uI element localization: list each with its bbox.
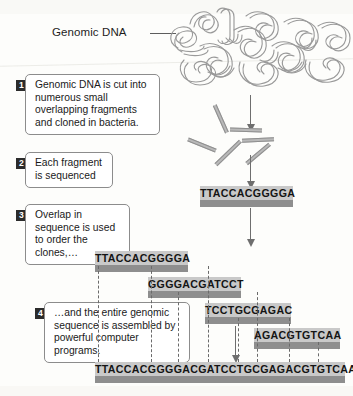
clone-sequence-text: GGGGACGATCCT bbox=[148, 277, 241, 291]
dna-tangle-icon bbox=[160, 2, 353, 94]
arrow-sequence bbox=[250, 155, 251, 182]
alignment-guide bbox=[178, 292, 179, 362]
arrow-assemble bbox=[235, 326, 236, 356]
alignment-guide bbox=[151, 266, 152, 362]
dna-fragment bbox=[213, 104, 228, 133]
clone-sequence-text: TTACCACGGGGA bbox=[95, 251, 188, 265]
alignment-guide bbox=[257, 292, 258, 362]
clone-sequence-text: AGACGTGTCAA bbox=[254, 328, 340, 342]
sequenced-fragment-bar: TTACCACGGGGA bbox=[200, 186, 293, 207]
clone-bar: AGACGTGTCAA bbox=[254, 328, 340, 349]
arrow-cut bbox=[250, 95, 251, 125]
step-2-callout: Each fragment is sequenced bbox=[25, 152, 113, 188]
alignment-guide bbox=[318, 342, 319, 362]
figure-genome-sequencing: Genomic DNA bbox=[0, 0, 353, 396]
alignment-guide bbox=[98, 266, 99, 362]
scan-artifact-bottom bbox=[0, 386, 353, 396]
clone-body bbox=[254, 342, 340, 349]
dna-fragment bbox=[230, 127, 262, 132]
alignment-guide bbox=[289, 318, 290, 362]
sequenced-fragment-text: TTACCACGGGGA bbox=[200, 186, 293, 200]
sequenced-fragment-body bbox=[200, 200, 293, 207]
clone-body bbox=[148, 291, 241, 298]
step-4-callout: …and the entire genomic sequence is asse… bbox=[44, 302, 190, 363]
clone-bar: TCCTGCGAGAC bbox=[205, 303, 291, 324]
clone-body bbox=[95, 265, 188, 272]
dna-fragment bbox=[187, 138, 216, 153]
alignment-guide bbox=[208, 266, 209, 362]
assembled-sequence-body bbox=[95, 376, 345, 383]
arrow-order bbox=[250, 208, 251, 240]
dna-fragment bbox=[215, 140, 242, 166]
clone-bar: TTACCACGGGGA bbox=[95, 251, 188, 272]
dna-fragment bbox=[242, 137, 274, 142]
clone-body bbox=[205, 317, 291, 324]
genomic-dna-label: Genomic DNA bbox=[52, 26, 127, 38]
clone-bar: GGGGACGATCCT bbox=[148, 277, 241, 298]
assembled-sequence-text: TTACCACGGGGACGATCCTGCGAGACGTGTCAA bbox=[95, 362, 345, 376]
assembled-sequence-bar: TTACCACGGGGACGATCCTGCGAGACGTGTCAA bbox=[95, 362, 345, 383]
clone-sequence-text: TCCTGCGAGAC bbox=[205, 303, 291, 317]
step-1-callout: Genomic DNA is cut into numerous small o… bbox=[25, 74, 160, 135]
